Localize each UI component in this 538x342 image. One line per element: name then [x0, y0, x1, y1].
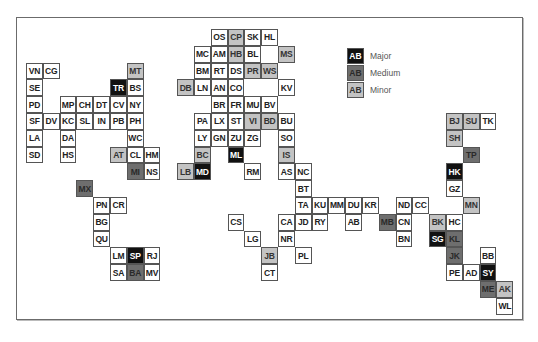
tile-nd: ND: [396, 197, 413, 214]
tile-lm: LM: [110, 247, 127, 264]
tile-fr: FR: [228, 96, 245, 113]
tile-du: DU: [345, 197, 362, 214]
tile-sy: SY: [480, 264, 497, 281]
tile-ny: NY: [127, 96, 144, 113]
tile-ns: NS: [144, 163, 161, 180]
tile-lb: LB: [177, 163, 194, 180]
tile-st: ST: [228, 113, 245, 130]
tile-hm: HM: [144, 147, 161, 164]
tile-lx: LX: [211, 113, 228, 130]
tile-ly: LY: [194, 130, 211, 147]
tile-mt: MT: [127, 63, 144, 80]
tile-dv: DV: [43, 113, 60, 130]
tile-co: CO: [228, 79, 245, 96]
tile-hc: HC: [446, 214, 463, 231]
tile-ab: AB: [345, 214, 362, 231]
tile-jb: JB: [261, 247, 278, 264]
tile-an: AN: [211, 79, 228, 96]
tile-sg: SG: [429, 231, 446, 248]
legend-swatch-medium: AB: [347, 65, 364, 81]
tile-sl: SL: [76, 113, 93, 130]
tile-ws: WS: [261, 63, 278, 80]
tile-ak: AK: [496, 281, 513, 298]
tile-ku: KU: [312, 197, 329, 214]
tile-ad: AD: [463, 264, 480, 281]
tile-bu: BU: [278, 113, 295, 130]
tile-ct: CT: [261, 264, 278, 281]
tile-ph: PH: [127, 113, 144, 130]
legend-swatch-major: AB: [347, 48, 364, 64]
tile-ds: DS: [228, 63, 245, 80]
tile-os: OS: [211, 29, 228, 46]
tile-pn: PN: [93, 197, 110, 214]
tile-ta: TA: [295, 197, 312, 214]
tile-so: SO: [278, 130, 295, 147]
tile-su: SU: [463, 113, 480, 130]
tile-rt: RT: [211, 63, 228, 80]
tile-mm: MM: [328, 197, 345, 214]
tile-tr: TR: [110, 79, 127, 96]
tile-jd: JD: [295, 214, 312, 231]
tile-cv: CV: [110, 96, 127, 113]
tile-mc: MC: [194, 46, 211, 63]
tile-vn: VN: [26, 63, 43, 80]
tile-ml: ML: [228, 147, 245, 164]
tile-gz: GZ: [446, 180, 463, 197]
tile-sa: SA: [110, 264, 127, 281]
tile-cg: CG: [43, 63, 60, 80]
tile-bg: BG: [93, 214, 110, 231]
tile-kc: KC: [60, 113, 77, 130]
tile-bk: BK: [429, 214, 446, 231]
tile-pb: PB: [110, 113, 127, 130]
tile-mi: MI: [127, 163, 144, 180]
tile-dt: DT: [93, 96, 110, 113]
tile-br: BR: [211, 96, 228, 113]
tile-wc: WC: [127, 130, 144, 147]
tile-hb: HB: [228, 46, 245, 63]
tile-rj: RJ: [144, 247, 161, 264]
tile-bv: BV: [261, 96, 278, 113]
tile-qu: QU: [93, 231, 110, 248]
legend-item-major: AB Major: [347, 47, 400, 64]
tile-pl: PL: [295, 247, 312, 264]
tile-gn: GN: [211, 130, 228, 147]
tile-rm: RM: [244, 163, 261, 180]
tile-ln: LN: [194, 79, 211, 96]
legend: AB Major AB Medium AB Minor: [347, 47, 400, 98]
legend-label-minor: Minor: [370, 85, 391, 95]
tile-mp: MP: [60, 96, 77, 113]
tile-cp: CP: [228, 29, 245, 46]
tile-sd: SD: [26, 147, 43, 164]
tile-pr: PR: [244, 63, 261, 80]
tile-la: LA: [26, 130, 43, 147]
tile-tp: TP: [463, 147, 480, 164]
tile-bm: BM: [194, 63, 211, 80]
tile-ry: RY: [312, 214, 329, 231]
tile-vi: VI: [244, 113, 261, 130]
tile-mv: MV: [144, 264, 161, 281]
tile-bs: BS: [127, 79, 144, 96]
tile-bl: BL: [244, 46, 261, 63]
tile-db: DB: [177, 79, 194, 96]
tile-mu: MU: [244, 96, 261, 113]
tile-kv: KV: [278, 79, 295, 96]
tile-nc: NC: [295, 163, 312, 180]
tile-sp: SP: [127, 247, 144, 264]
tile-da: DA: [60, 130, 77, 147]
legend-item-minor: AB Minor: [347, 81, 400, 98]
tile-at: AT: [110, 147, 127, 164]
tile-ms: MS: [278, 46, 295, 63]
tile-am: AM: [211, 46, 228, 63]
tile-cr: CR: [110, 197, 127, 214]
tile-zu: ZU: [228, 130, 245, 147]
tile-mb: MB: [379, 214, 396, 231]
tile-sh: SH: [446, 130, 463, 147]
tile-nr: NR: [278, 231, 295, 248]
tile-lg: LG: [244, 231, 261, 248]
tile-ca: CA: [278, 214, 295, 231]
tile-sk: SK: [244, 29, 261, 46]
tile-bj: BJ: [446, 113, 463, 130]
tile-pa: PA: [194, 113, 211, 130]
tile-sf: SF: [26, 113, 43, 130]
tile-jk: JK: [446, 247, 463, 264]
